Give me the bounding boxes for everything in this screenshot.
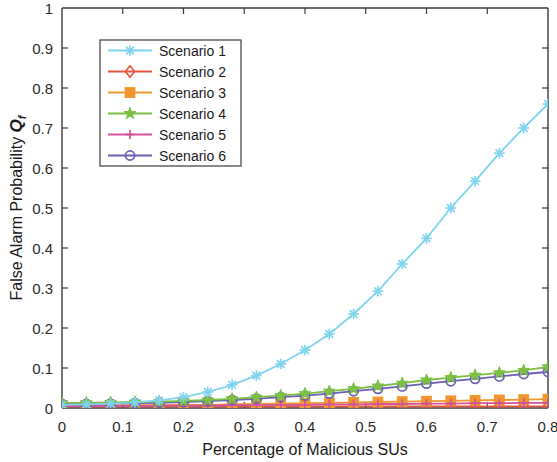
data-point-marker xyxy=(251,370,262,381)
data-point-marker xyxy=(154,395,165,406)
chart-figure: 00.10.20.30.40.50.60.70.80.9100.10.20.30… xyxy=(0,0,557,462)
legend-label: Scenario 1 xyxy=(159,43,226,59)
data-point-marker xyxy=(125,45,136,56)
false-alarm-probability-chart: 00.10.20.30.40.50.60.70.80.9100.10.20.30… xyxy=(0,0,557,462)
x-axis-tick-label: 0.3 xyxy=(234,418,255,435)
x-axis-title: Percentage of Malicious SUs xyxy=(202,441,407,458)
svg-text:False Alarm Probability Qf: False Alarm Probability Qf xyxy=(7,114,28,300)
y-axis-tick-label: 0.5 xyxy=(32,200,53,217)
x-axis-tick-label: 0.6 xyxy=(416,418,437,435)
x-axis-tick-label: 0.2 xyxy=(173,418,194,435)
legend-label: Scenario 5 xyxy=(159,127,226,143)
y-axis-tick-label: 0.7 xyxy=(32,120,53,137)
x-axis-tick-label: 0.5 xyxy=(355,418,376,435)
legend-label: Scenario 6 xyxy=(159,148,226,164)
data-point-marker xyxy=(275,359,286,370)
y-axis-tick-label: 0.9 xyxy=(32,40,53,57)
legend-label: Scenario 4 xyxy=(159,106,226,122)
y-axis-tick-label: 1 xyxy=(45,0,53,17)
y-axis-tick-label: 0.8 xyxy=(32,80,53,97)
y-axis-tick-label: 0.6 xyxy=(32,160,53,177)
data-point-marker xyxy=(470,176,481,187)
data-point-marker xyxy=(421,233,432,244)
x-axis-tick-label: 0.7 xyxy=(477,418,498,435)
chart-legend[interactable]: Scenario 1Scenario 2Scenario 3Scenario 4… xyxy=(100,40,241,166)
legend-label: Scenario 2 xyxy=(159,64,226,80)
x-axis-tick-label: 0.1 xyxy=(112,418,133,435)
y-axis-tick-label: 0 xyxy=(45,400,53,417)
x-axis-tick-label: 0.4 xyxy=(295,418,316,435)
data-point-marker xyxy=(203,387,214,398)
data-point-marker xyxy=(446,203,457,214)
data-point-marker xyxy=(324,329,335,340)
data-point-marker xyxy=(178,392,189,403)
data-point-marker xyxy=(397,259,408,270)
data-point-marker xyxy=(373,286,384,297)
data-point-marker xyxy=(125,88,134,97)
data-point-marker xyxy=(227,380,238,391)
y-axis-title: False Alarm Probability Qf xyxy=(7,114,28,300)
legend-label: Scenario 3 xyxy=(159,85,226,101)
y-axis-tick-label: 0.1 xyxy=(32,360,53,377)
x-axis-tick-label: 0.8 xyxy=(538,418,557,435)
data-point-marker xyxy=(348,309,359,320)
y-axis-tick-label: 0.2 xyxy=(32,320,53,337)
y-axis-tick-label: 0.3 xyxy=(32,280,53,297)
data-point-marker xyxy=(494,148,505,159)
data-point-marker xyxy=(300,345,311,356)
y-axis-tick-label: 0.4 xyxy=(32,240,53,257)
x-axis-tick-label: 0 xyxy=(58,418,66,435)
data-point-marker xyxy=(518,123,529,134)
data-point-marker xyxy=(130,397,141,408)
data-point-marker xyxy=(105,398,116,409)
